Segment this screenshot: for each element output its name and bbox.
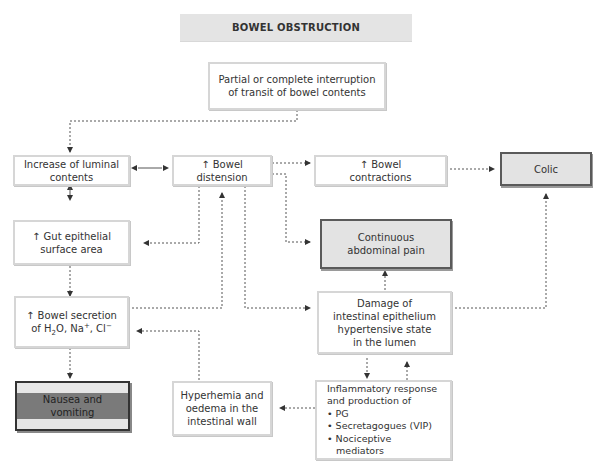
node-text: Nausea and bbox=[43, 393, 102, 406]
node-text: of transit of bowel contents bbox=[228, 86, 365, 99]
node-text: contents bbox=[50, 171, 94, 184]
node-text: Inflammatory response bbox=[327, 383, 437, 396]
list-item: • Secretagogues (VIP) bbox=[327, 420, 432, 433]
node-text: hypertensive state bbox=[338, 323, 432, 336]
node-text: contractions bbox=[350, 171, 412, 184]
node-epithelium-damage: Damage of intestinal epithelium hyperten… bbox=[317, 291, 452, 354]
node-text: surface area bbox=[40, 243, 102, 256]
node-text: ↑ Bowel secretion bbox=[26, 309, 117, 322]
node-text: Partial or complete interruption bbox=[219, 73, 376, 86]
node-gut-epithelial-area: ↑ Gut epithelial surface area bbox=[13, 220, 130, 265]
node-colic: Colic bbox=[500, 152, 592, 186]
node-inflammatory-response: Inflammatory response and production of … bbox=[315, 380, 452, 460]
node-hyperhemia-oedema: Hyperhemia and oedema in the intestinal … bbox=[172, 381, 272, 436]
node-text: Colic bbox=[534, 163, 558, 176]
node-nausea-vomiting: Nausea and vomiting bbox=[15, 381, 130, 431]
node-text: vomiting bbox=[51, 406, 95, 419]
list-item: • PG bbox=[327, 408, 349, 421]
node-text: oedema in the bbox=[186, 402, 259, 415]
node-text: Continuous bbox=[358, 231, 414, 244]
node-text: distension bbox=[196, 171, 247, 184]
node-text: Damage of bbox=[357, 297, 412, 310]
node-text: intestinal epithelium bbox=[333, 310, 436, 323]
node-text: ↑ Bowel bbox=[201, 158, 243, 171]
node-text: ↑ Gut epithelial bbox=[32, 230, 111, 243]
node-bowel-distension: ↑ Bowel distension bbox=[172, 155, 272, 186]
node-text-formula: of H2O, Na+, Cl− bbox=[31, 322, 112, 335]
node-luminal-contents: Increase of luminal contents bbox=[13, 155, 130, 186]
node-text: and production of bbox=[327, 395, 411, 408]
node-bowel-contractions: ↑ Bowel contractions bbox=[314, 155, 447, 186]
node-text: ↑ Bowel bbox=[360, 158, 402, 171]
node-text: abdominal pain bbox=[347, 244, 424, 257]
node-bowel-secretion: ↑ Bowel secretion of H2O, Na+, Cl− bbox=[14, 296, 129, 348]
node-text: Increase of luminal bbox=[24, 158, 119, 171]
list-item: • Nociceptive bbox=[327, 433, 391, 446]
node-interruption: Partial or complete interruption of tran… bbox=[208, 62, 386, 110]
node-abdominal-pain: Continuous abdominal pain bbox=[320, 219, 452, 269]
list-item: mediators bbox=[327, 445, 384, 458]
node-text: in the lumen bbox=[353, 336, 416, 349]
node-text: intestinal wall bbox=[187, 415, 256, 428]
node-text: Hyperhemia and bbox=[180, 389, 263, 402]
